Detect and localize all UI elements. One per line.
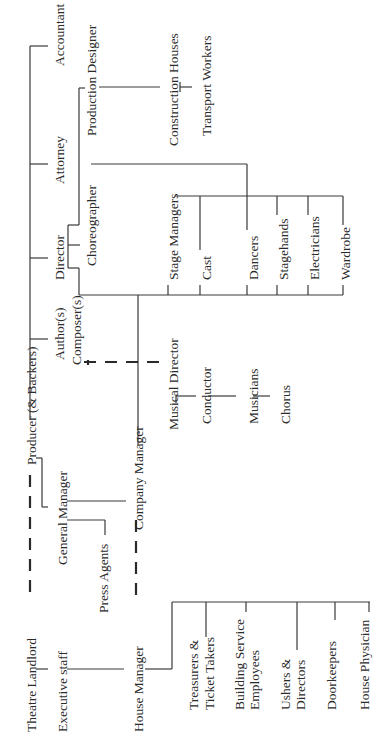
node-label-musical-director: Musical Director	[166, 338, 181, 430]
node-label-producer: Producer (& Backers)	[24, 347, 39, 465]
node-label-building-service-2: Employees	[247, 650, 262, 710]
node-label-production-designer: Production Designer	[84, 24, 99, 136]
node-label-musicians: Musicians	[246, 369, 261, 425]
node-label-general-manager: General Manager	[55, 470, 70, 565]
node-label-house-physician: House Physician	[357, 619, 372, 710]
node-label-electricians: Electricians	[307, 216, 322, 280]
node-label-executive-staff: Executive staff	[55, 650, 70, 732]
node-label-ushers-2: Directors	[293, 660, 308, 710]
node-label-ushers-1: Ushers &	[278, 658, 293, 710]
node-label-cast: Cast	[199, 256, 214, 280]
node-label-stage-managers: Stage Managers	[166, 193, 181, 280]
node-label-doorkeepers: Doorkeepers	[324, 641, 339, 710]
node-label-treasurers-1: Treasurers &	[186, 639, 201, 710]
node-label-transport-workers: Transport Workers	[199, 35, 214, 136]
node-label-choreographer: Choreographer	[84, 185, 99, 266]
node-label-wardrobe: Wardrobe	[338, 227, 353, 280]
node-label-chorus: Chorus	[278, 385, 293, 424]
node-label-building-service-1: Building Service	[232, 619, 247, 710]
node-label-stagehands: Stagehands	[276, 219, 291, 281]
node-label-accountant: Accountant	[52, 4, 67, 66]
node-label-attorney: Attorney	[52, 136, 67, 184]
node-label-house-manager: House Manager	[131, 646, 146, 732]
node-label-theatre-landlord: Theatre Landlord	[24, 638, 39, 732]
node-label-conductor: Conductor	[199, 367, 214, 424]
node-label-company-manager: Company Manager	[131, 426, 146, 530]
node-label-composers: Composer(s)	[69, 295, 84, 365]
node-label-director: Director	[52, 235, 67, 280]
node-label-press-agents: Press Agents	[96, 544, 111, 613]
node-label-construction-houses: Construction Houses	[166, 33, 181, 146]
node-label-authors: Author(s)	[52, 308, 67, 361]
node-label-dancers: Dancers	[246, 236, 261, 280]
org-chart: Producer (& Backers)Theatre LandlordExec…	[0, 0, 383, 736]
node-label-treasurers-2: Ticket Takers	[202, 637, 217, 710]
node-labels: Producer (& Backers)Theatre LandlordExec…	[24, 4, 372, 732]
